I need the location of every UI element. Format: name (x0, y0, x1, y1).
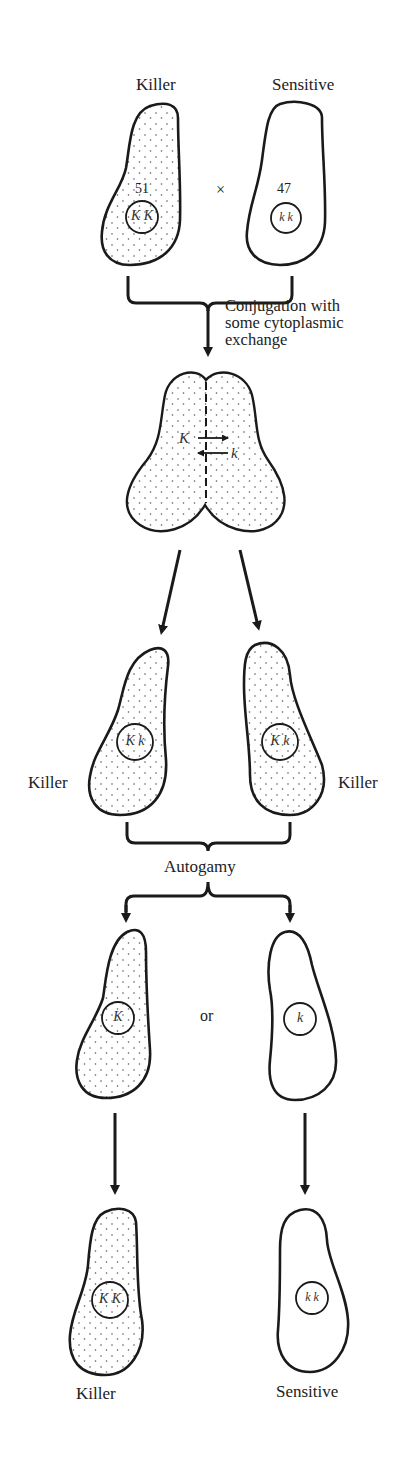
autogamy-brace-lower (126, 882, 290, 912)
exchange-allele-k-dominant: K (179, 431, 189, 446)
autogamy-label: Autogamy (164, 858, 236, 875)
left-exconjugant-genotype: K k (117, 734, 153, 748)
conjugation-label: Conjugation with some cytoplasmic exchan… (225, 297, 344, 348)
right-exconjugant-genotype: K k (262, 734, 298, 748)
right-exconjugant-label: Killer (338, 774, 378, 791)
sensitive-progeny-genotype: k k (296, 1291, 328, 1303)
conjugation-label-line-2: some cytoplasmic (225, 314, 344, 331)
or-separator: or (200, 1008, 213, 1024)
arrow-to-left-exconjugant (162, 550, 180, 630)
sensitive-parent-label: Sensitive (272, 76, 334, 93)
killer-progeny-genotype: K K (92, 1292, 128, 1306)
autogamy-sensitive-genotype: k (290, 1011, 310, 1025)
left-exconjugant-cell (89, 648, 168, 815)
killer-parent-genotype: K K (126, 209, 158, 223)
autogamy-brace-upper (127, 822, 290, 851)
inheritance-diagram (0, 0, 403, 1466)
sensitive-progeny-label: Sensitive (276, 1383, 338, 1400)
sensitive-parent-stock-number: 47 (277, 182, 291, 196)
exchange-allele-k-recessive: k (231, 446, 238, 461)
left-exconjugant-label: Killer (28, 774, 68, 791)
conjugating-pair (127, 373, 285, 532)
killer-parent-stock-number: 51 (135, 182, 149, 196)
arrow-to-right-exconjugant (240, 550, 258, 626)
conjugation-label-line-3: exchange (225, 331, 344, 348)
sensitive-parent-genotype: k k (271, 211, 301, 223)
conjugation-label-line-1: Conjugation with (225, 297, 344, 314)
killer-progeny-label: Killer (76, 1385, 116, 1402)
right-exconjugant-cell (244, 643, 324, 815)
cross-symbol: × (216, 182, 225, 198)
autogamy-killer-genotype: K (108, 1010, 128, 1024)
killer-parent-label: Killer (136, 76, 176, 93)
